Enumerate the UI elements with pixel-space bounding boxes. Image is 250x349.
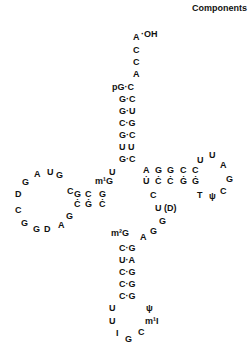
nucleotide-label: G: [159, 216, 166, 226]
nucleotide-label: U U: [119, 142, 135, 152]
nucleotide-label: C·G: [119, 118, 136, 128]
nucleotide-label: m¹I: [145, 316, 159, 326]
nucleotide-label: Ċ: [99, 199, 106, 209]
nucleotide-label: Ċ: [155, 176, 162, 186]
nucleotide-label: Ġ: [180, 176, 187, 186]
nucleotide-label: G: [66, 211, 73, 221]
nucleotide-label: ψ: [209, 191, 216, 201]
nucleotide-label: G: [33, 224, 40, 234]
nucleotide-label: C: [180, 165, 187, 175]
nucleotide-label: G: [56, 170, 63, 180]
nucleotide-label: A: [34, 169, 41, 179]
nucleotide-label: G·C: [119, 154, 136, 164]
nucleotide-label: U: [209, 150, 216, 160]
nucleotide-label: C: [138, 327, 145, 337]
nucleotide-label: G: [155, 165, 162, 175]
nucleotide-label: Ġ: [192, 176, 199, 186]
nucleotide-label: T: [197, 190, 203, 200]
nucleotide-label: C: [133, 45, 140, 55]
nucleotide-label: G: [99, 189, 106, 199]
nucleotide-label: G: [226, 174, 233, 184]
nucleotide-label: D: [44, 224, 51, 234]
nucleotide-label: Ċ: [167, 176, 174, 186]
components-title: Components: [192, 3, 247, 13]
nucleotide-label: C: [150, 190, 157, 200]
nucleotide-label: A: [143, 165, 150, 175]
nucleotide-label: C: [220, 186, 227, 196]
nucleotide-label: A: [58, 220, 65, 230]
nucleotide-label: U̇: [143, 176, 150, 186]
nucleotide-label: C·G: [119, 291, 136, 301]
nucleotide-label: C·G: [119, 279, 136, 289]
nucleotide-label: D: [15, 189, 22, 199]
nucleotide-label: G: [21, 218, 28, 228]
nucleotide-label: ψ: [146, 303, 153, 313]
nucleotide-label: A: [140, 232, 147, 242]
nucleotide-label: G·C: [119, 94, 136, 104]
nucleotide-label: m¹G: [95, 176, 113, 186]
nucleotide-label: A: [133, 69, 140, 79]
nucleotide-label: C: [67, 186, 74, 196]
nucleotide-label: C: [133, 57, 140, 67]
nucleotide-label: pG·C: [112, 82, 134, 92]
nucleotide-label: I: [116, 328, 119, 338]
nucleotide-label: G: [125, 334, 132, 344]
nucleotide-label: C·G: [119, 243, 136, 253]
nucleotide-label: G: [167, 165, 174, 175]
nucleotide-label: ·OH: [141, 29, 158, 39]
nucleotide-label: Ċ: [74, 199, 81, 209]
nucleotide-label: U·A: [119, 255, 135, 265]
nucleotide-label: m²G: [111, 228, 129, 238]
nucleotide-label: U: [109, 316, 116, 326]
nucleotide-label: G: [150, 226, 157, 236]
nucleotide-label: C: [15, 205, 22, 215]
nucleotide-label: Ġ: [85, 199, 92, 209]
nucleotide-label: C·G: [119, 267, 136, 277]
nucleotide-label: G: [74, 189, 81, 199]
nucleotide-label: U: [109, 303, 116, 313]
nucleotide-label: G·C: [119, 130, 136, 140]
nucleotide-label: C: [192, 165, 199, 175]
nucleotide-label: U: [197, 155, 204, 165]
nucleotide-label: U: [47, 167, 54, 177]
nucleotide-label: G: [22, 177, 29, 187]
nucleotide-label: C: [85, 189, 92, 199]
nucleotide-label: A: [133, 32, 140, 42]
nucleotide-label: U (D): [155, 203, 177, 213]
nucleotide-label: A: [220, 160, 227, 170]
nucleotide-label: G·U: [119, 106, 136, 116]
